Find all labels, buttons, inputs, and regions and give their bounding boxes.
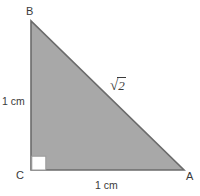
side-length-label-ca: 1 cm <box>95 180 118 191</box>
vertex-label-b: B <box>26 6 33 17</box>
vertex-label-c: C <box>16 170 24 181</box>
radical-expression: √2 <box>110 78 126 93</box>
triangle-svg <box>0 0 200 196</box>
vertex-label-a: A <box>186 171 193 182</box>
side-length-label-ab: √2 <box>110 78 126 93</box>
right-angle-marker <box>32 156 46 170</box>
triangle-shape <box>31 21 184 170</box>
radicand-value: 2 <box>117 77 126 93</box>
geometry-figure: B C A 1 cm 1 cm √2 <box>0 0 200 196</box>
side-length-label-bc: 1 cm <box>2 96 25 107</box>
